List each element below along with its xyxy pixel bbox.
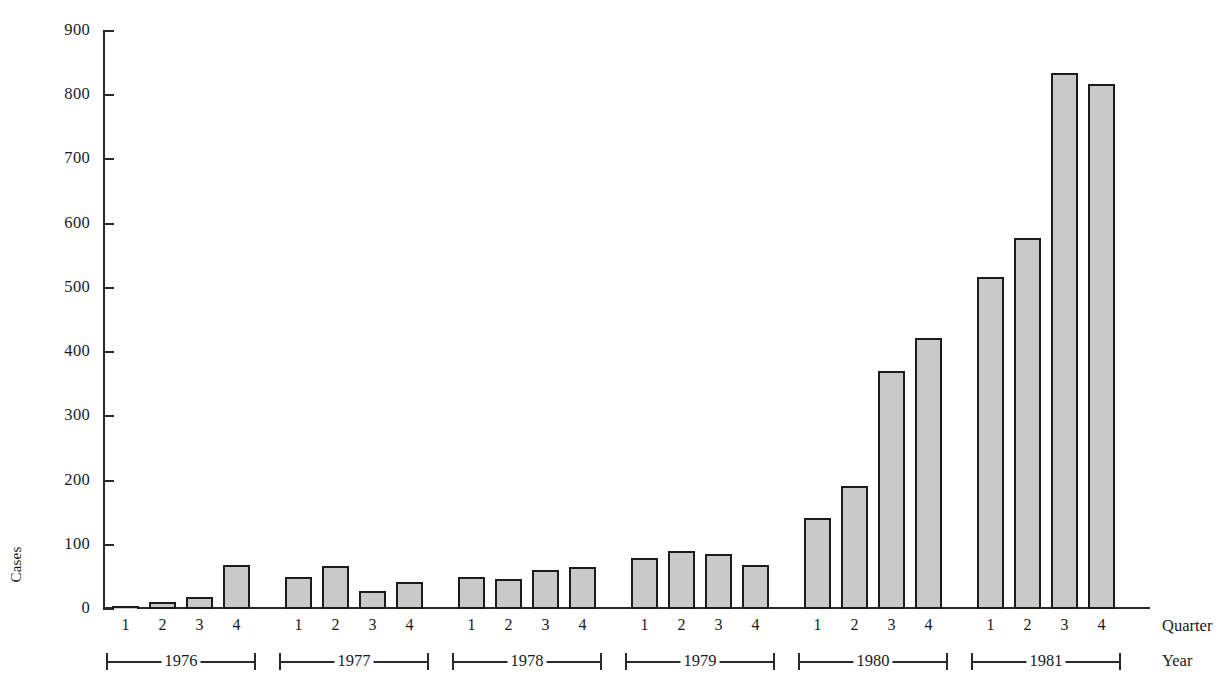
bar [396,582,423,609]
year-bracket: 1978 [452,650,602,674]
year-bracket: 1977 [279,650,429,674]
year-bracket-cap-left [798,653,800,670]
bar [322,566,349,609]
bar [359,591,386,609]
bar [841,486,868,609]
year-label: 1979 [681,650,720,672]
bar [149,602,176,609]
year-bracket: 1980 [798,650,948,674]
quarter-tick-label: 4 [568,616,598,634]
quarter-tick-label: 1 [976,616,1006,634]
quarter-tick-label: 2 [667,616,697,634]
y-axis-tick-label: 500 [16,277,90,297]
quarter-tick-label: 2 [1013,616,1043,634]
year-bracket-cap-left [106,653,108,670]
quarter-tick-label: 4 [395,616,425,634]
quarter-tick-label: 1 [284,616,314,634]
quarter-tick-label: 4 [222,616,252,634]
bar [1088,84,1115,609]
bar [186,597,213,609]
y-axis-tick-label: 600 [16,213,90,233]
bar [742,565,769,609]
year-bracket-cap-right [946,653,948,670]
bar [285,577,312,609]
plot-area [103,31,1150,609]
bar [804,518,831,609]
y-axis-tick-label: 400 [16,341,90,361]
bar [977,277,1004,609]
year-label: 1977 [335,650,374,672]
quarter-tick-label: 4 [1087,616,1117,634]
y-axis-tick-label: 100 [16,534,90,554]
quarter-tick-label: 2 [148,616,178,634]
year-bracket-cap-right [773,653,775,670]
quarter-tick-label: 1 [630,616,660,634]
year-bracket: 1979 [625,650,775,674]
y-axis-tick-label: 900 [16,20,90,40]
bar [1014,238,1041,609]
y-axis-tick-label: 200 [16,470,90,490]
quarter-tick-label: 1 [803,616,833,634]
quarter-tick-label: 3 [185,616,215,634]
quarter-tick-label: 1 [457,616,487,634]
bar [631,558,658,609]
quarter-tick-label: 4 [914,616,944,634]
year-label: 1981 [1027,650,1066,672]
quarter-tick-label: 1 [111,616,141,634]
year-bracket-cap-left [452,653,454,670]
quarter-tick-label: 3 [704,616,734,634]
quarter-tick-label: 4 [741,616,771,634]
year-bracket-cap-right [427,653,429,670]
bar [705,554,732,609]
bar [223,565,250,609]
year-bracket: 1976 [106,650,256,674]
y-axis-tick-label: 800 [16,84,90,104]
year-bracket-cap-left [625,653,627,670]
y-axis-tick-label: 300 [16,405,90,425]
bar [1051,73,1078,609]
bar [112,606,139,609]
year-bracket-cap-right [254,653,256,670]
quarter-tick-label: 3 [1050,616,1080,634]
y-axis-tick-label: 0 [16,598,90,618]
bar [458,577,485,609]
year-label: 1978 [508,650,547,672]
y-axis-tick-label: 700 [16,148,90,168]
year-bracket: 1981 [971,650,1121,674]
quarter-tick-label: 2 [494,616,524,634]
year-bracket-cap-left [279,653,281,670]
bar [915,338,942,609]
bar [495,579,522,609]
bar [569,567,596,609]
quarter-tick-label: 2 [840,616,870,634]
bar [668,551,695,609]
quarter-tick-label: 2 [321,616,351,634]
quarter-tick-label: 3 [877,616,907,634]
year-bracket-cap-left [971,653,973,670]
bar [532,570,559,609]
year-bracket-cap-right [600,653,602,670]
year-label: 1980 [854,650,893,672]
year-label: 1976 [162,650,201,672]
quarter-tick-label: 3 [358,616,388,634]
quarter-tick-label: 3 [531,616,561,634]
quarter-axis-title: Quarter [1162,616,1212,636]
year-axis-title: Year [1162,651,1192,671]
bar-chart: Cases 0100200300400500600700800900 12341… [0,0,1220,688]
bar [878,371,905,609]
year-bracket-cap-right [1119,653,1121,670]
